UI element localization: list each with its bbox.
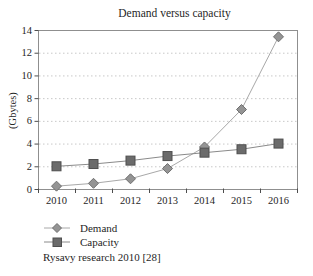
capacity-legend-marker-icon (43, 236, 71, 248)
legend-item-capacity: Capacity (43, 235, 119, 249)
demand-marker (274, 32, 284, 42)
y-tick-label: 4 (27, 138, 33, 149)
legend-item-demand: Demand (43, 221, 119, 235)
x-tick-label: 2012 (120, 195, 141, 206)
y-tick-label: 6 (27, 115, 32, 126)
y-axis-title: (Gbytes) (7, 72, 18, 150)
capacity-marker (126, 156, 135, 165)
y-tick-label: 12 (22, 47, 33, 58)
capacity-marker (163, 152, 172, 161)
demand-marker (163, 164, 173, 174)
x-tick-label: 2014 (194, 195, 216, 206)
demand-marker (89, 178, 99, 188)
chart-legend: Demand Capacity (43, 221, 119, 249)
capacity-marker (89, 160, 98, 169)
legend-label-capacity: Capacity (80, 236, 119, 248)
y-tick-label: 8 (27, 93, 32, 104)
y-tick-label: 14 (22, 25, 33, 36)
capacity-marker (237, 145, 246, 154)
capacity-marker (52, 162, 61, 171)
legend-label-demand: Demand (80, 222, 117, 234)
x-tick-label: 2013 (157, 195, 178, 206)
plot-area: 024681012142010201120122013201420152016 (0, 0, 313, 215)
x-tick-label: 2016 (268, 195, 289, 206)
capacity-marker (200, 148, 209, 157)
y-tick-label: 10 (22, 70, 33, 81)
demand-legend-marker-icon (43, 222, 71, 234)
source-note: Rysavy research 2010 [28] (43, 251, 161, 263)
x-tick-label: 2010 (46, 195, 67, 206)
demand-marker (126, 174, 136, 184)
y-tick-label: 0 (27, 184, 32, 195)
y-tick-label: 2 (27, 161, 32, 172)
x-tick-label: 2015 (231, 195, 252, 206)
x-tick-label: 2011 (83, 195, 104, 206)
chart-figure: Demand versus capacity 02468101214201020… (0, 0, 313, 276)
capacity-marker (274, 139, 283, 148)
